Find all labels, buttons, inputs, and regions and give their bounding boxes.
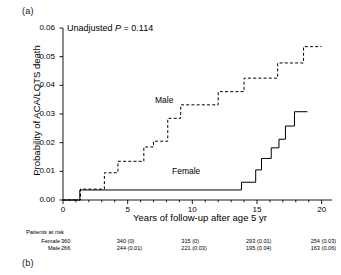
- y-tick-label: 0.03: [29, 109, 55, 118]
- x-tick-label: 10: [181, 205, 203, 214]
- x-tick-label: 0: [52, 205, 74, 214]
- table-row: Male 266244 (0.01)221 (0.03)195 (0.04)16…: [26, 244, 338, 251]
- axes: [60, 28, 333, 204]
- p-value-annotation: Unadjusted P = 0.114: [67, 23, 153, 33]
- x-tick-label: 5: [117, 205, 139, 214]
- table-row: Female 360340 (0)315 (0)293 (0.01)254 (0…: [26, 237, 338, 244]
- risk-cell: 266: [61, 244, 70, 252]
- risk-cell: 244 (0.01): [117, 244, 143, 252]
- risk-cell: 221 (0.03): [181, 244, 207, 252]
- y-tick-label: 0.01: [29, 166, 55, 175]
- x-tick-label: 20: [311, 205, 333, 214]
- y-tick-label: 0.05: [29, 52, 55, 61]
- y-tick-label: 0.00: [29, 195, 55, 204]
- y-tick-label: 0.06: [29, 23, 55, 32]
- figure-panel-a: (a) (b) Probability of ACA/LQTS death Ye…: [0, 0, 341, 275]
- risk-cell: 163 (0.06): [311, 244, 337, 252]
- patients-at-risk-table: Patients at risk Female 360340 (0)315 (0…: [26, 228, 338, 251]
- p-value-number: = 0.114: [121, 23, 153, 33]
- risk-table-title: Patients at risk: [26, 228, 338, 236]
- y-tick-label: 0.04: [29, 80, 55, 89]
- x-tick-label: 15: [246, 205, 268, 214]
- male-curve-label: Male: [155, 95, 173, 105]
- female-survival-curve: [63, 112, 307, 200]
- risk-row-label-male: Male: [34, 244, 60, 252]
- y-tick-label: 0.02: [29, 138, 55, 147]
- risk-cell: 195 (0.04): [246, 244, 272, 252]
- p-value-prefix: Unadjusted: [67, 23, 115, 33]
- male-survival-curve: [63, 47, 322, 200]
- female-curve-label: Female: [172, 166, 200, 176]
